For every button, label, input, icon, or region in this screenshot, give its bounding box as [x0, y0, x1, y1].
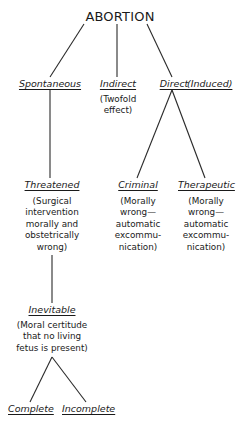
edge-abortion-spontaneous — [50, 24, 84, 77]
edge-abortion-direct — [147, 24, 172, 77]
node-incomplete: Incomplete — [62, 403, 112, 414]
edge-inevitable-complete — [30, 357, 52, 402]
node-therapeutic: Therapeutic — [178, 179, 234, 190]
node-threatened: Threatened — [20, 179, 84, 190]
note-threatened: (Surgical intervention morally and obste… — [14, 196, 90, 253]
node-criminal: Criminal — [114, 179, 162, 190]
node-direct: Direct — [158, 78, 190, 89]
node-direct-induced: (Induced) — [187, 78, 231, 89]
note-indirect: (Twofold effect) — [92, 94, 144, 117]
root-abortion: ABORTION — [70, 9, 170, 24]
edge-inevitable-incomplete — [52, 357, 86, 402]
note-inevitable: (Moral certitude that no living fetus is… — [8, 320, 96, 354]
node-complete: Complete — [8, 403, 52, 414]
note-criminal: (Morally wrong— automatic excommu- nicat… — [110, 196, 166, 253]
node-inevitable: Inevitable — [24, 304, 80, 315]
note-therapeutic: (Morally wrong— automatic excommu- nicat… — [178, 196, 234, 253]
node-indirect: Indirect — [97, 78, 139, 89]
edge-direct-therapeutic — [172, 90, 205, 178]
node-spontaneous: Spontaneous — [14, 78, 86, 89]
